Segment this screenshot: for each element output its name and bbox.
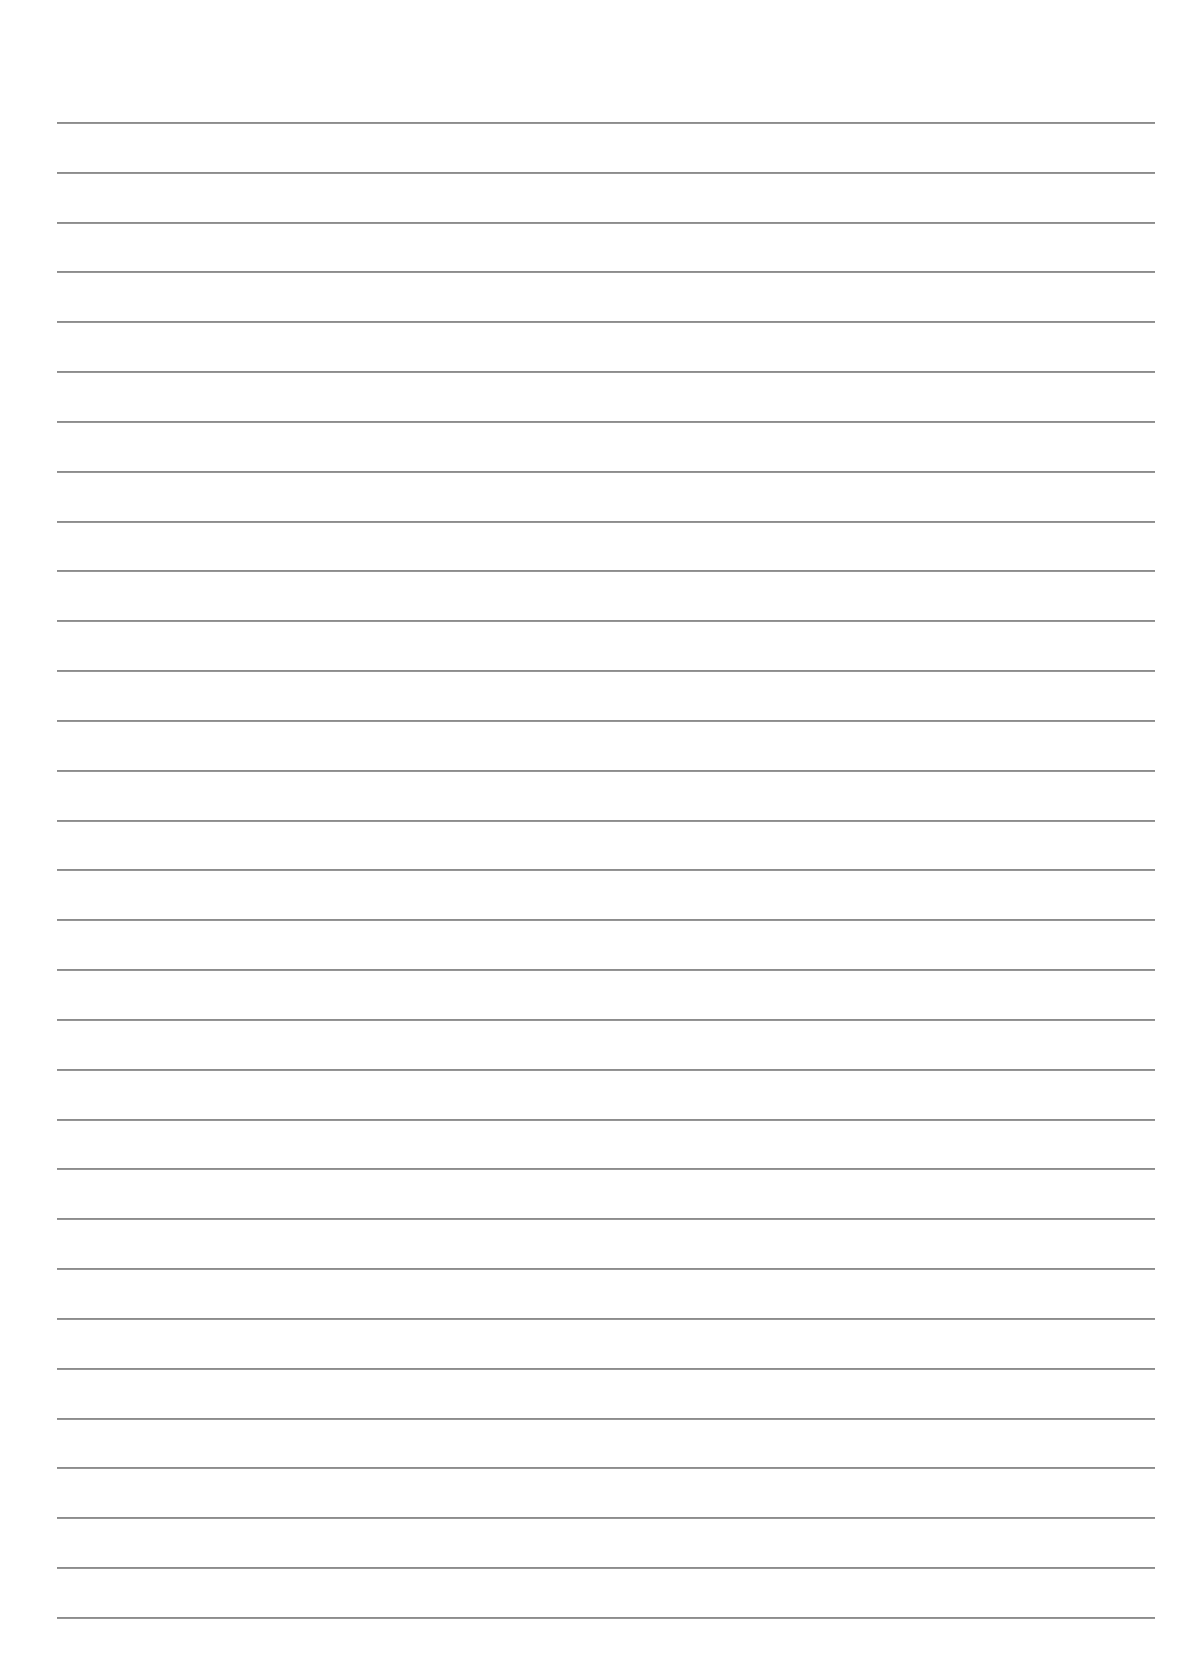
ruled-line [57, 122, 1155, 124]
ruled-line [57, 620, 1155, 622]
ruled-line [57, 1418, 1155, 1420]
ruled-line [57, 570, 1155, 572]
ruled-line [57, 1168, 1155, 1170]
ruled-line [57, 371, 1155, 373]
ruled-line [57, 321, 1155, 323]
ruled-line [57, 222, 1155, 224]
ruled-line [57, 1617, 1155, 1619]
ruled-line [57, 969, 1155, 971]
ruled-line [57, 720, 1155, 722]
ruled-line [57, 1019, 1155, 1021]
ruled-line [57, 670, 1155, 672]
ruled-line [57, 869, 1155, 871]
ruled-line [57, 1218, 1155, 1220]
ruled-line [57, 421, 1155, 423]
ruled-line [57, 521, 1155, 523]
ruled-line [57, 471, 1155, 473]
ruled-line [57, 1368, 1155, 1370]
ruled-line [57, 1119, 1155, 1121]
ruled-line [57, 820, 1155, 822]
ruled-line [57, 1467, 1155, 1469]
ruled-line [57, 1268, 1155, 1270]
ruled-line [57, 172, 1155, 174]
ruled-line [57, 919, 1155, 921]
ruled-line [57, 1517, 1155, 1519]
ruled-line [57, 1567, 1155, 1569]
ruled-line [57, 271, 1155, 273]
ruled-paper-sheet [0, 0, 1202, 1675]
ruled-line [57, 1318, 1155, 1320]
ruled-line [57, 1069, 1155, 1071]
ruled-line [57, 770, 1155, 772]
